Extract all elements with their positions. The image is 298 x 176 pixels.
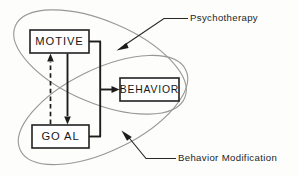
goal-to-motive-connector — [47, 54, 54, 125]
psychotherapy-leader-line — [124, 19, 188, 46]
connector-to-behavior — [89, 42, 120, 137]
behavior-box-label: BEHAVIOR — [120, 84, 179, 95]
psychotherapy-leader-arrowhead — [117, 43, 129, 51]
behavior-modification-ellipse-group — [2, 33, 203, 176]
behavior-modification-label: Behavior Modification — [178, 152, 277, 163]
behavior-arrowhead — [112, 86, 120, 93]
motive-arrowhead — [47, 54, 54, 62]
behavior-modification-ellipse — [2, 33, 203, 176]
motive-box[interactable]: MOTIVE — [30, 30, 89, 53]
motive-box-label: MOTIVE — [35, 35, 83, 47]
concept-diagram: MOTIVE GO AL BEHAVIOR Psychotherapy Beha… — [0, 0, 298, 176]
goal-box-label: GO AL — [41, 130, 79, 142]
behavior-modification-annotation: Behavior Modification — [122, 131, 278, 164]
motive-to-goal-connector — [64, 54, 71, 125]
goal-arrowhead — [64, 117, 71, 125]
goal-box[interactable]: GO AL — [32, 125, 89, 148]
psychotherapy-annotation: Psychotherapy — [117, 12, 259, 50]
psychotherapy-label: Psychotherapy — [190, 12, 258, 23]
diagram-canvas: MOTIVE GO AL BEHAVIOR Psychotherapy Beha… — [0, 0, 298, 176]
behavior-box[interactable]: BEHAVIOR — [120, 78, 179, 101]
